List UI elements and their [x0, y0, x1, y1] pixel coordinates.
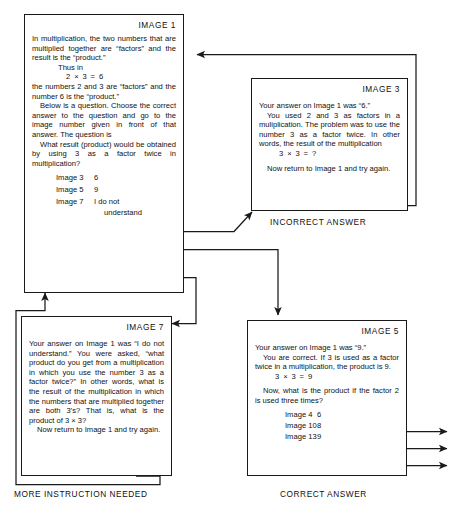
image1-equation: 2 × 3 = 6 [32, 72, 176, 82]
frame-image-5-title: IMAGE 5 [248, 321, 406, 336]
image1-choice-row[interactable]: Image 5 9 [32, 184, 176, 196]
frame-image-5[interactable]: IMAGE 5 Your answer on Image 1 was “9.” … [247, 320, 407, 476]
image3-equation: 3 × 3 = ? [259, 149, 400, 159]
image5-paragraph-1: Your answer on Image 1 was “9.” [255, 343, 399, 353]
frame-image-3[interactable]: IMAGE 3 Your answer on Image 1 was “6.” … [251, 78, 408, 211]
image1-choice-value: I do not understand [94, 196, 142, 219]
image1-paragraph-3: the numbers 2 and 3 are “factors” and th… [32, 82, 176, 101]
frame-image-1[interactable]: IMAGE 1 In multiplication, the two numbe… [24, 14, 184, 293]
image1-choice-row[interactable]: Image 3 6 [32, 172, 176, 184]
frame-image-3-title: IMAGE 3 [252, 79, 407, 94]
caption-more-instruction-needed: MORE INSTRUCTION NEEDED [14, 489, 147, 499]
image5-choice-target: Image 4 [255, 409, 317, 420]
frame-image-5-body: Your answer on Image 1 was “9.” You are … [248, 336, 406, 406]
frame-image-7-title: IMAGE 7 [22, 317, 171, 332]
image1-choice-list: Image 3 6 Image 5 9 Image 7 I do not und… [25, 168, 183, 218]
image5-paragraph-2: You are correct. If 3 is used as a facto… [255, 353, 399, 372]
frame-image-3-body: Your answer on Image 1 was “6.” You used… [252, 94, 407, 173]
image5-choice-value: 9 [317, 431, 321, 442]
frame-image-7[interactable]: IMAGE 7 Your answer on Image 1 was “I do… [21, 316, 172, 476]
image1-choice-target: Image 3 [32, 172, 94, 184]
image5-choice-row[interactable]: Image 4 6 [255, 409, 399, 420]
image1-choice-value-line1: I do not [94, 197, 119, 206]
image1-choice-value-line2: understand [94, 207, 142, 219]
image7-paragraph-1: Your answer on Image 1 was “I do not und… [29, 339, 164, 425]
image1-paragraph-4: Below is a question. Choose the correct … [32, 101, 176, 139]
image1-paragraph-5: What result (product) would be obtained … [32, 140, 176, 169]
image3-paragraph-2: You used 2 and 3 as factors in a mulipli… [259, 111, 400, 149]
image1-choice-row[interactable]: Image 7 I do not understand [32, 196, 176, 219]
image3-paragraph-1: Your answer on Image 1 was “6.” [259, 101, 400, 111]
image1-choice-target: Image 5 [32, 184, 94, 196]
frame-image-1-body: In multiplication, the two numbers that … [25, 30, 183, 168]
image3-paragraph-3: Now return to Image 1 and try again. [259, 164, 400, 174]
image1-paragraph-2: Thus in [32, 63, 176, 73]
image5-choice-row[interactable]: Image 10 8 [255, 420, 399, 431]
image5-choice-row[interactable]: Image 13 9 [255, 431, 399, 442]
image5-paragraph-3: Now, what is the product if the factor 2… [255, 386, 399, 405]
image5-equation: 3 × 3 = 9 [255, 372, 399, 382]
image5-choice-target: Image 10 [255, 420, 317, 431]
image1-choice-target: Image 7 [32, 196, 94, 219]
diagram-canvas: IMAGE 1 In multiplication, the two numbe… [0, 0, 460, 520]
image1-paragraph-1: In multiplication, the two numbers that … [32, 34, 176, 63]
frame-image-7-body: Your answer on Image 1 was “I do not und… [22, 332, 171, 435]
frame-image-1-title: IMAGE 1 [25, 15, 183, 30]
caption-incorrect-answer: INCORRECT ANSWER [270, 217, 366, 227]
image1-choice-value: 9 [94, 184, 98, 196]
image5-choice-list: Image 4 6 Image 10 8 Image 13 9 [248, 406, 406, 443]
image5-choice-target: Image 13 [255, 431, 317, 442]
image1-choice-value: 6 [94, 172, 98, 184]
image5-choice-value: 8 [317, 420, 321, 431]
image7-paragraph-2: Now return to Image 1 and try again. [29, 425, 164, 435]
image5-choice-value: 6 [317, 409, 321, 420]
caption-correct-answer: CORRECT ANSWER [280, 489, 367, 499]
